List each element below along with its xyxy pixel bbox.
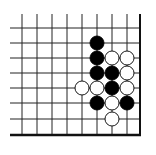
white-stone	[120, 81, 134, 95]
black-stone	[90, 51, 104, 65]
go-board	[0, 0, 156, 155]
white-stone	[105, 112, 119, 126]
white-stone	[105, 96, 119, 110]
white-stone	[90, 81, 104, 95]
stones-layer	[75, 36, 134, 126]
black-stone	[90, 66, 104, 80]
black-stone	[105, 81, 119, 95]
white-stone	[105, 51, 119, 65]
black-stone	[90, 96, 104, 110]
white-stone	[75, 81, 89, 95]
white-stone	[120, 51, 134, 65]
black-stone	[105, 66, 119, 80]
black-stone	[120, 96, 134, 110]
black-stone	[90, 36, 104, 50]
white-stone	[120, 66, 134, 80]
